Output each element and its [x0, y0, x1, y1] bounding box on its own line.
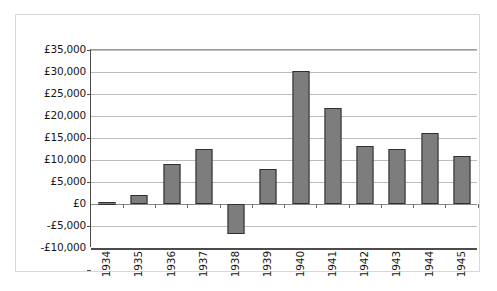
bar-slot: [317, 50, 349, 247]
chart-frame: £35,000£30,000£25,000£20,000£15,000£10,0…: [15, 14, 480, 272]
bar-slot: [285, 50, 317, 247]
x-axis-tick-label-1943: 1943: [390, 251, 402, 277]
y-axis-tick-label: £20,000: [44, 109, 86, 121]
y-axis-tick-label: -£10,000: [40, 241, 86, 253]
x-axis-labels: 1934193519361937193819391940194119421943…: [90, 251, 477, 287]
bar-1943: [389, 149, 406, 204]
bar-1936: [163, 164, 180, 204]
x-axis-tick-label-1936: 1936: [165, 251, 177, 277]
x-axis-tick-label-1935: 1935: [132, 251, 144, 277]
x-axis-tick-label-1941: 1941: [326, 251, 338, 277]
bar-series: [91, 50, 477, 247]
y-axis-tick-label: £0: [73, 197, 86, 209]
x-axis-tick-label-1945: 1945: [455, 251, 467, 277]
bar-1934: [99, 202, 116, 206]
bar-1941: [324, 108, 341, 204]
bar-slot: [414, 50, 446, 247]
x-tick-mark: [478, 204, 479, 208]
x-axis-tick-label-1934: 1934: [100, 251, 112, 277]
bar-slot: [381, 50, 413, 247]
y-axis-tick-label: -£5,000: [47, 219, 86, 231]
bar-1939: [260, 169, 277, 204]
y-axis-tick-label: £10,000: [44, 153, 86, 165]
gridline--10000: [91, 248, 477, 250]
bar-1938: [228, 204, 245, 234]
bar-slot: [349, 50, 381, 247]
y-axis-tick-label: £25,000: [44, 87, 86, 99]
bar-slot: [188, 50, 220, 247]
y-axis-labels: £35,000£30,000£25,000£20,000£15,000£10,0…: [31, 49, 90, 247]
x-axis-tick-label-1940: 1940: [294, 251, 306, 277]
bar-1942: [357, 146, 374, 204]
bar-slot: [156, 50, 188, 247]
x-axis-tick-label-1944: 1944: [423, 251, 435, 277]
bar-1945: [453, 156, 470, 204]
bar-1944: [421, 133, 438, 204]
y-axis-tick-label: £15,000: [44, 131, 86, 143]
x-axis-tick-label-1937: 1937: [197, 251, 209, 277]
bar-1937: [195, 149, 212, 204]
plot-area: [90, 49, 477, 247]
bar-1935: [131, 195, 148, 204]
y-axis-tick-label: £5,000: [50, 175, 86, 187]
bar-slot: [91, 50, 123, 247]
y-axis-tick-label: £30,000: [44, 65, 86, 77]
x-axis-tick-label-1939: 1939: [261, 251, 273, 277]
x-axis-tick-label-1942: 1942: [358, 251, 370, 277]
x-axis-tick-label-1938: 1938: [229, 251, 241, 277]
bar-slot: [252, 50, 284, 247]
y-axis-tick-label: £35,000: [44, 43, 86, 55]
bar-slot: [123, 50, 155, 247]
bar-slot: [220, 50, 252, 247]
chart-screenshot: £35,000£30,000£25,000£20,000£15,000£10,0…: [0, 0, 497, 291]
bar-1940: [292, 71, 309, 204]
bar-slot: [446, 50, 478, 247]
